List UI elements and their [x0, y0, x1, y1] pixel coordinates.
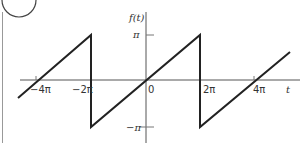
x-axis-label: t [286, 84, 291, 95]
x-tick-label-neg4pi: −4π [30, 84, 51, 95]
y-axis-label: f(t) [128, 12, 145, 23]
sawtooth-line [18, 35, 290, 127]
y-tick-label-pi: π [132, 29, 140, 40]
figure-badge-circle [2, 0, 36, 17]
x-tick-label-4pi: 4π [253, 84, 265, 95]
sawtooth-chart: f(t) π −π −4π −2π 0 2π 4π t [0, 0, 304, 143]
y-tick-label-neg-pi: −π [126, 122, 141, 133]
x-tick-label-2pi: 2π [203, 84, 215, 95]
x-tick-label-neg2pi: −2π [72, 84, 93, 95]
x-tick-label-zero: 0 [148, 84, 154, 95]
